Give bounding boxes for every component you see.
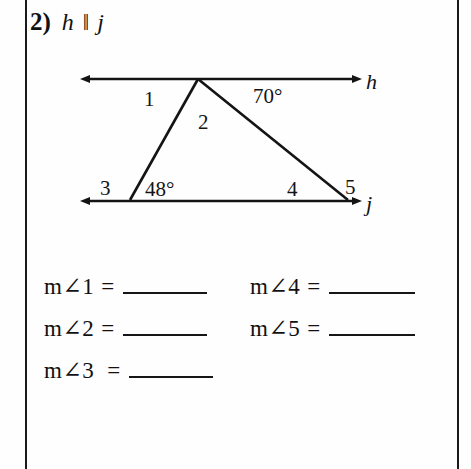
answer-equals-4: = xyxy=(307,274,320,300)
line-h-label: h xyxy=(366,69,377,95)
answer-row-angle-3: m∠3 = xyxy=(44,356,213,384)
answer-row-angle-5: m∠5 = xyxy=(250,314,415,342)
answer-label-1: m∠1 xyxy=(44,273,94,300)
answer-label-2: m∠2 xyxy=(44,315,94,342)
answer-equals-5: = xyxy=(307,316,320,342)
answer-label-5: m∠5 xyxy=(250,315,300,342)
angle-label-4: 4 xyxy=(287,177,298,202)
answer-blank-2[interactable] xyxy=(123,314,207,336)
angle-label-48: 48° xyxy=(145,177,174,202)
geometry-diagram: h j 1 2 70° 3 48° 4 5 xyxy=(0,0,471,260)
angle-label-3: 3 xyxy=(100,176,111,201)
answer-equals-1: = xyxy=(101,274,114,300)
worksheet-page: 2) h ‖ j h j xyxy=(0,0,471,469)
answer-row-angle-2: m∠2 = xyxy=(44,314,207,342)
answer-equals-2: = xyxy=(101,316,114,342)
answer-blank-1[interactable] xyxy=(123,272,207,294)
answer-label-4: m∠4 xyxy=(250,273,300,300)
answer-blank-4[interactable] xyxy=(329,272,415,294)
answer-section: m∠1 = m∠2 = m∠3 = m∠4 = m∠5 = xyxy=(0,272,471,432)
answer-blank-5[interactable] xyxy=(329,314,415,336)
answer-equals-3: = xyxy=(107,358,120,384)
angle-label-70: 70° xyxy=(253,84,282,109)
diagram-svg xyxy=(0,0,471,260)
angle-label-1: 1 xyxy=(144,87,155,112)
answer-row-angle-1: m∠1 = xyxy=(44,272,207,300)
angle-label-2: 2 xyxy=(198,110,209,135)
angle-label-5: 5 xyxy=(345,175,356,200)
answer-row-angle-4: m∠4 = xyxy=(250,272,415,300)
answer-label-3: m∠3 xyxy=(44,357,94,384)
line-j-label: j xyxy=(366,191,372,217)
answer-blank-3[interactable] xyxy=(129,356,213,378)
